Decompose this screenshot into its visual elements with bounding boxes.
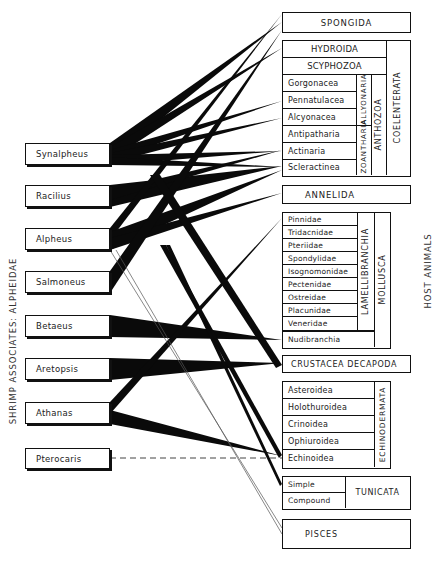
host-label: Simple (288, 480, 315, 489)
shrimp-label: Synalpheus (36, 149, 88, 159)
host-label: SPONGIDA (321, 18, 372, 28)
tunicata-label: TUNICATA (355, 488, 399, 497)
host-label: Scleractinea (288, 163, 340, 172)
host-group-coelenterata: HYDROIDA SCYPHOZOA Gorgonacea Pennatulac… (282, 40, 411, 177)
host-echinoidea[interactable]: Echinoidea (283, 450, 374, 467)
host-holothuroidea[interactable]: Holothuroidea (283, 399, 374, 416)
host-label: Tridacnidae (288, 228, 333, 237)
host-hydroida[interactable]: HYDROIDA (283, 41, 386, 58)
host-group-echinodermata: Asteroidea Holothuroidea Crinoidea Ophiu… (282, 381, 391, 469)
host-label: Pectenidae (288, 280, 331, 289)
host-actinaria[interactable]: Actinaria (283, 143, 356, 160)
host-asteroidea[interactable]: Asteroidea (283, 382, 374, 399)
shrimp-salmoneus[interactable]: Salmoneus (25, 271, 110, 293)
host-label: Gorgonacea (288, 79, 338, 88)
host-crustacea-decapoda[interactable]: CRUSTACEA DECAPODA (282, 355, 411, 373)
host-scyphozoa[interactable]: SCYPHOZOA (283, 58, 386, 75)
host-veneridae[interactable]: Veneridae (283, 317, 357, 331)
anthozoa-label: ANTHOZOA (374, 84, 383, 165)
host-label: SCYPHOZOA (307, 61, 362, 71)
host-label: Antipatharia (288, 130, 340, 139)
lamellibranchia-label: LAMELLIBRANCHIA (361, 214, 370, 329)
host-pteriidae[interactable]: Pteriidae (283, 239, 357, 252)
host-label: Nudibranchia (288, 335, 340, 344)
host-label: Asteroidea (288, 386, 333, 395)
host-annelida[interactable]: ANNELIDA (282, 185, 411, 204)
zoantharia-label: ZOANTHARIA (360, 125, 368, 174)
coelenterata-label: COELENTERATA (393, 58, 402, 158)
host-label: Crinoidea (288, 420, 328, 429)
host-ostreidae[interactable]: Ostreidae (283, 291, 357, 304)
shrimp-label: Pterocaris (36, 454, 81, 464)
host-tridacnidae[interactable]: Tridacnidae (283, 226, 357, 239)
host-label: Ostreidae (288, 293, 326, 302)
shrimp-label: Betaeus (36, 321, 73, 331)
host-label: Veneridae (288, 319, 327, 328)
host-spongida[interactable]: SPONGIDA (282, 12, 411, 33)
host-simple[interactable]: Simple (283, 477, 345, 493)
host-nudibranchia[interactable]: Nudibranchia (283, 331, 374, 347)
host-label: Pennatulacea (288, 96, 344, 105)
host-pectenidae[interactable]: Pectenidae (283, 278, 357, 291)
link-alpheus-pisces-b (116, 250, 282, 534)
shrimp-aretopsis[interactable]: Aretopsis (25, 358, 110, 380)
host-isognomonidae[interactable]: Isognomonidae (283, 265, 357, 278)
echinodermata-label: ECHINODERMATA (378, 382, 387, 468)
shrimp-label: Salmoneus (36, 277, 86, 287)
host-label: Echinoidea (288, 454, 334, 463)
shrimp-athanas[interactable]: Athanas (25, 402, 110, 424)
host-gorgonacea[interactable]: Gorgonacea (283, 75, 356, 92)
host-pennatulacea[interactable]: Pennatulacea (283, 92, 356, 109)
host-label: Actinaria (288, 147, 325, 156)
host-label: HYDROIDA (311, 44, 358, 54)
shrimp-racilius[interactable]: Racilius (25, 185, 110, 207)
host-crinoidea[interactable]: Crinoidea (283, 416, 374, 433)
shrimp-axis-label: SHRIMP ASSOCIATES: ALPHEIDAE (8, 251, 18, 431)
shrimp-alpheus[interactable]: Alpheus (25, 228, 110, 250)
host-label: Pinnidae (288, 215, 322, 224)
host-label: Pteriidae (288, 241, 323, 250)
host-label: CRUSTACEA DECAPODA (291, 360, 397, 369)
host-compound[interactable]: Compound (283, 493, 345, 508)
shrimp-pterocaris[interactable]: Pterocaris (25, 448, 110, 469)
shrimp-label: Athanas (36, 408, 73, 418)
host-label: Placunidae (288, 306, 331, 315)
host-group-tunicata: Simple Compound TUNICATA (282, 476, 411, 510)
host-spondylidae[interactable]: Spondylidae (283, 252, 357, 265)
host-label: Spondylidae (288, 254, 336, 263)
alcyonaria-label: ALLYONARIA (360, 74, 368, 125)
link-alpheus-pisces-a (110, 250, 282, 528)
shrimp-label: Racilius (36, 191, 71, 201)
host-alcyonacea[interactable]: Alcyonacea (283, 109, 356, 126)
host-pisces[interactable]: PISCES (282, 519, 411, 549)
tunicata-column: TUNICATA (345, 477, 409, 508)
shrimp-label: Aretopsis (36, 364, 78, 374)
shrimp-betaeus[interactable]: Betaeus (25, 315, 110, 337)
host-placunidae[interactable]: Placunidae (283, 304, 357, 317)
host-label: PISCES (305, 530, 338, 539)
host-ophiuroidea[interactable]: Ophiuroidea (283, 433, 374, 450)
host-label: ANNELIDA (305, 190, 355, 200)
host-label: Alcyonacea (288, 113, 336, 122)
host-scleractinea[interactable]: Scleractinea (283, 160, 356, 175)
host-axis-label: HOST ANIMALS (423, 221, 433, 321)
host-label: Holothuroidea (288, 403, 347, 412)
host-pinnidae[interactable]: Pinnidae (283, 213, 357, 226)
host-label: Compound (288, 496, 330, 505)
host-label: Ophiuroidea (288, 437, 339, 446)
shrimp-synalpheus[interactable]: Synalpheus (25, 143, 110, 165)
shrimp-label: Alpheus (36, 234, 72, 244)
mollusca-label: MOLLUSCA (378, 230, 387, 330)
host-label: Isognomonidae (288, 267, 348, 276)
host-group-mollusca: Pinnidae Tridacnidae Pteriidae Spondylid… (282, 212, 391, 349)
host-antipatharia[interactable]: Antipatharia (283, 126, 356, 143)
